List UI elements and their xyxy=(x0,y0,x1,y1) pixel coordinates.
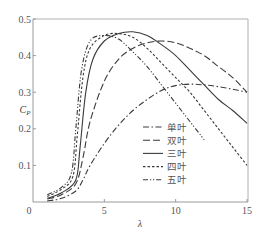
legend-label: 三叶 xyxy=(167,148,187,159)
curves xyxy=(47,32,247,201)
y-axis-label: CP xyxy=(20,104,32,117)
curve-1 xyxy=(47,84,247,201)
cp-lambda-chart: 0510150.10.20.30.40.5 单叶双叶三叶四叶五叶 CP λ xyxy=(0,0,257,233)
axis-ticks: 0510150.10.20.30.40.5 xyxy=(19,14,253,217)
x-tick-label: 10 xyxy=(171,205,181,216)
y-tick-label: 0.3 xyxy=(19,87,32,98)
x-tick-label: 0 xyxy=(27,205,32,216)
y-tick-label: 0.1 xyxy=(19,160,32,171)
y-tick-label: 0.2 xyxy=(19,123,32,134)
y-tick-label: 0.4 xyxy=(19,50,32,61)
legend-label: 单叶 xyxy=(167,122,187,133)
x-axis-label: λ xyxy=(137,218,143,229)
x-tick-label: 15 xyxy=(242,205,252,216)
x-tick-label: 5 xyxy=(102,205,107,216)
legend: 单叶双叶三叶四叶五叶 xyxy=(143,122,187,186)
legend-label: 四叶 xyxy=(167,161,187,172)
curve-3 xyxy=(47,32,247,199)
legend-label: 双叶 xyxy=(167,135,187,146)
plot-frame xyxy=(33,19,248,202)
legend-label: 五叶 xyxy=(167,174,187,185)
y-tick-label: 0.5 xyxy=(19,14,32,25)
